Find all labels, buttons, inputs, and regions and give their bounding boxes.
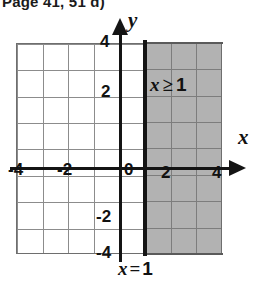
boundary-equation-label: x=1 [118, 258, 153, 280]
coordinate-plane-figure: y x 4 2 0 -2 -4 -4 -2 2 4 x≥1 x=1 [0, 0, 268, 291]
y-tick-label-4: 4 [100, 32, 109, 52]
y-axis-line [119, 30, 122, 262]
origin-label-0: 0 [124, 160, 133, 180]
equation-variable: x [118, 258, 128, 279]
inequality-label: x≥1 [150, 74, 187, 96]
y-tick-label-neg-4: -4 [96, 243, 111, 263]
equation-value: 1 [142, 258, 153, 279]
shaded-region-bottom-edge [145, 253, 223, 255]
inequality-value: 1 [176, 74, 187, 95]
y-axis-arrow-icon [112, 18, 128, 35]
inequality-relation: ≥ [160, 74, 176, 95]
shaded-region-top-edge [145, 42, 223, 44]
x-tick-label-4: 4 [212, 163, 221, 183]
y-axis-label: y [128, 8, 137, 33]
x-axis-line [10, 167, 232, 170]
y-tick-label-2: 2 [101, 82, 110, 102]
x-tick-label-neg-2: -2 [57, 160, 72, 180]
x-tick-label-neg-4: -4 [8, 160, 23, 180]
x-axis-label: x [238, 125, 249, 150]
equation-relation: = [128, 258, 143, 279]
x-axis-arrow-icon [229, 160, 246, 176]
inequality-variable: x [150, 74, 160, 95]
y-tick-label-neg-2: -2 [96, 207, 111, 227]
boundary-line-x-equals-1 [143, 40, 147, 256]
x-tick-label-2: 2 [161, 163, 170, 183]
